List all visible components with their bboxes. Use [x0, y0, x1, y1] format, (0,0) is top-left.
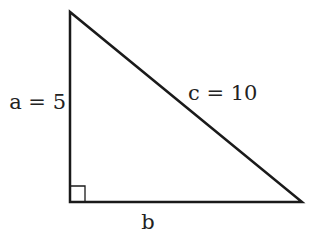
- right-angle-marker: [70, 186, 85, 202]
- side-c-label: c = 10: [188, 81, 257, 105]
- right-triangle-diagram: a = 5 b c = 10: [0, 0, 314, 244]
- triangle-shape: [70, 12, 302, 202]
- side-b-label: b: [141, 210, 154, 234]
- side-a-label: a = 5: [9, 90, 66, 114]
